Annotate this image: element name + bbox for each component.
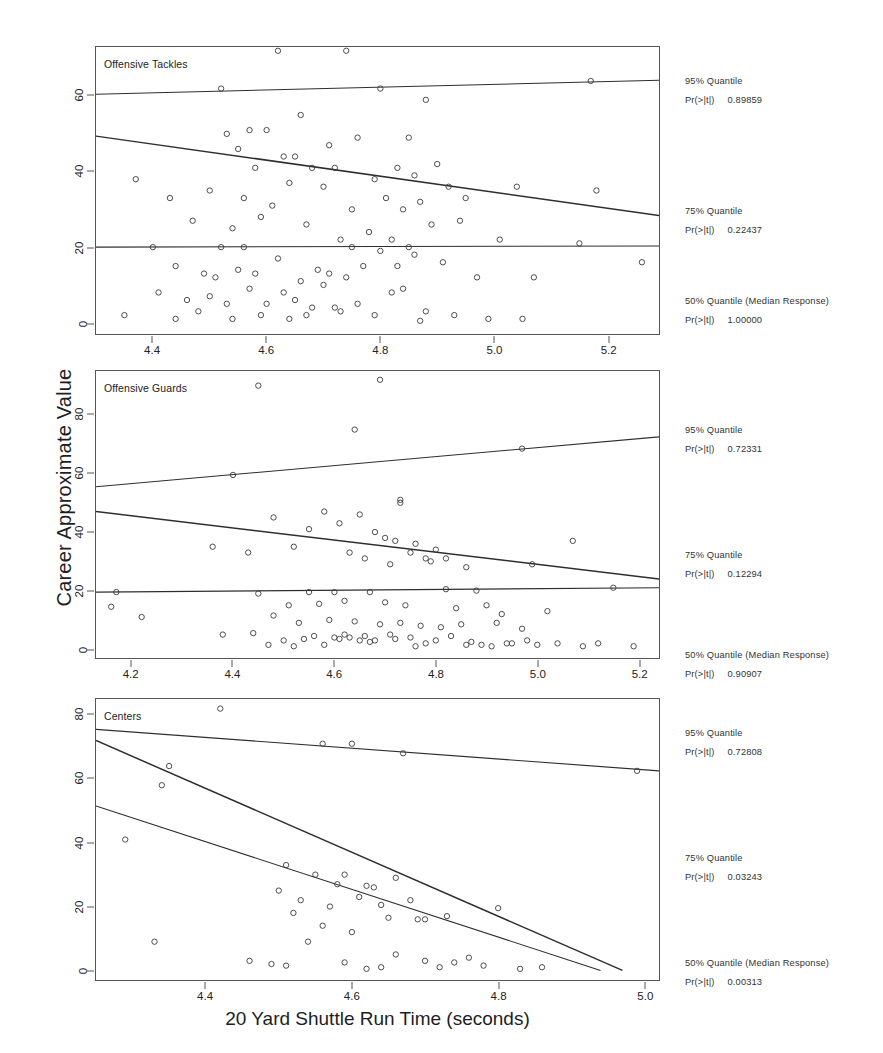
p-value-row: Pr(>|t|)0.89859: [685, 95, 883, 105]
data-point: [494, 620, 499, 625]
fit-line: [96, 729, 659, 771]
quantile-annotation: 95% QuantilePr(>|t|)0.72808: [685, 728, 883, 757]
data-point: [428, 559, 433, 564]
data-point: [281, 154, 286, 159]
quantile-label: 95% Quantile: [685, 728, 883, 738]
data-point: [444, 913, 449, 918]
fit-line: [96, 437, 659, 487]
data-point: [362, 633, 367, 638]
data-point: [241, 195, 246, 200]
p-value-label: Pr(>|t|): [685, 225, 715, 235]
data-point: [207, 294, 212, 299]
data-point: [517, 966, 522, 971]
data-point: [438, 625, 443, 630]
data-point: [321, 282, 326, 287]
x-tick-mark: [130, 660, 131, 667]
data-point: [123, 837, 128, 842]
y-tick-mark: [87, 414, 94, 415]
panel-title: Offensive Guards: [104, 382, 187, 394]
annotations-offensive-tackles: 95% QuantilePr(>|t|)0.8985975% QuantileP…: [685, 46, 883, 335]
data-point: [387, 562, 392, 567]
data-point: [372, 638, 377, 643]
data-point: [327, 904, 332, 909]
p-value-label: Pr(>|t|): [685, 569, 715, 579]
data-point: [400, 286, 405, 291]
data-point: [281, 290, 286, 295]
data-point: [283, 963, 288, 968]
data-point: [364, 883, 369, 888]
data-point: [400, 751, 405, 756]
data-point: [224, 131, 229, 136]
data-point: [253, 165, 258, 170]
quantile-annotation: 75% QuantilePr(>|t|)0.12294: [685, 550, 883, 579]
scatter-canvas: [96, 371, 659, 658]
x-tick-label: 5.0: [637, 990, 653, 1002]
y-tick-label: 80: [74, 708, 86, 721]
p-value-label: Pr(>|t|): [685, 95, 715, 105]
p-value-label: Pr(>|t|): [685, 444, 715, 454]
data-point: [304, 312, 309, 317]
scatter-canvas: [96, 47, 659, 334]
plot-area: [95, 698, 660, 981]
data-point: [122, 312, 127, 317]
x-tick-mark: [608, 336, 609, 343]
data-point: [417, 199, 422, 204]
data-point: [393, 952, 398, 957]
data-point: [535, 642, 540, 647]
x-tick-mark: [380, 336, 381, 343]
data-point: [301, 636, 306, 641]
x-tick-mark: [436, 660, 437, 667]
data-point: [270, 203, 275, 208]
data-point: [347, 635, 352, 640]
panel-centers: Centers 0204060804.44.64.85.0: [95, 698, 660, 981]
data-point: [372, 312, 377, 317]
data-point: [387, 632, 392, 637]
annotations-centers: 95% QuantilePr(>|t|)0.7280875% QuantileP…: [685, 698, 883, 981]
data-point: [412, 252, 417, 257]
data-point: [555, 641, 560, 646]
data-point: [315, 267, 320, 272]
data-point: [287, 316, 292, 321]
x-tick-label: 4.4: [144, 344, 160, 356]
data-point: [276, 888, 281, 893]
data-point: [448, 633, 453, 638]
data-point: [458, 622, 463, 627]
data-point: [588, 78, 593, 83]
data-point: [403, 603, 408, 608]
data-point: [453, 606, 458, 611]
data-point: [413, 644, 418, 649]
y-tick-label: 60: [74, 89, 86, 102]
quantile-label: 95% Quantile: [685, 425, 883, 435]
data-point: [382, 535, 387, 540]
y-tick-label: 40: [74, 836, 86, 849]
data-point: [479, 642, 484, 647]
p-value: 0.03243: [728, 872, 763, 882]
panel-offensive-guards: Offensive Guards 0204060804.24.44.64.85.…: [95, 370, 660, 659]
data-point: [283, 862, 288, 867]
data-point: [389, 237, 394, 242]
quantile-annotation: 75% QuantilePr(>|t|)0.03243: [685, 853, 883, 882]
data-point: [393, 875, 398, 880]
p-value-label: Pr(>|t|): [685, 315, 715, 325]
y-tick-mark: [87, 532, 94, 533]
data-point: [326, 143, 331, 148]
data-point: [218, 86, 223, 91]
data-point: [415, 917, 420, 922]
p-value-label: Pr(>|t|): [685, 747, 715, 757]
data-point: [256, 591, 261, 596]
data-point: [327, 617, 332, 622]
data-point: [269, 961, 274, 966]
p-value-label: Pr(>|t|): [685, 669, 715, 679]
data-point: [247, 286, 252, 291]
quantile-label: 75% Quantile: [685, 853, 883, 863]
data-point: [337, 636, 342, 641]
data-point: [342, 960, 347, 965]
data-point: [291, 544, 296, 549]
y-tick-label: 20: [74, 585, 86, 598]
plot-area: [95, 370, 660, 659]
x-tick-label: 5.2: [601, 344, 617, 356]
data-point: [298, 278, 303, 283]
data-point: [224, 301, 229, 306]
data-point: [481, 963, 486, 968]
x-tick-label: 5.0: [486, 344, 502, 356]
